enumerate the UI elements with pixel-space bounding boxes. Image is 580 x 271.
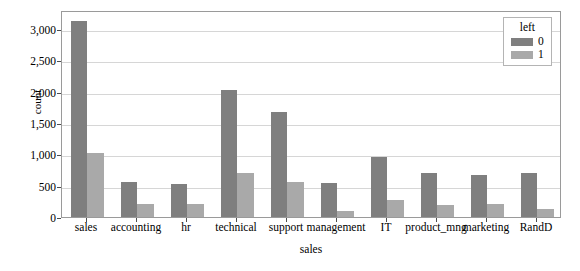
bar	[87, 153, 104, 217]
bar	[387, 200, 404, 217]
x-axis-tick-label: sales	[75, 221, 97, 233]
legend-entries: 01	[511, 35, 544, 61]
bar	[337, 211, 354, 217]
legend-entry: 0	[511, 35, 544, 48]
x-axis-tick-label: RandD	[520, 221, 553, 233]
bar	[287, 182, 304, 217]
legend-swatch	[511, 38, 533, 46]
bar	[321, 183, 338, 217]
bar-group	[121, 12, 154, 217]
x-axis-tick-label: product_mng	[405, 221, 466, 233]
bar-group	[471, 12, 504, 217]
y-axis-tick-label: 2,500	[2, 56, 56, 67]
bar-group	[421, 12, 454, 217]
x-axis-tick-label: accounting	[111, 221, 161, 233]
legend-entry: 1	[511, 48, 544, 61]
legend-title: left	[511, 21, 544, 33]
bar-group	[221, 12, 254, 217]
x-axis-tick-label: technical	[215, 221, 257, 233]
bar	[71, 21, 88, 217]
y-axis-tick-label: 1,500	[2, 119, 56, 130]
y-axis-tick-label: 2,000	[2, 88, 56, 99]
bar-group	[271, 12, 304, 217]
x-axis-tick-label: marketing	[463, 221, 510, 233]
bar	[221, 90, 238, 217]
bar	[471, 175, 488, 217]
y-axis-tick-label: 500	[2, 182, 56, 193]
x-axis-tick-label: hr	[181, 221, 191, 233]
bar-chart-figure: count 05001,0001,5002,0002,5003,000 sale…	[0, 0, 580, 271]
bar	[137, 204, 154, 217]
bar	[271, 112, 288, 217]
y-axis-tick-mark	[57, 218, 61, 219]
legend-label: 0	[538, 36, 544, 47]
bar	[187, 204, 204, 217]
bar-group	[71, 12, 104, 217]
legend: left 01	[503, 17, 552, 66]
x-axis-tick-label: IT	[381, 221, 392, 233]
plot-area	[61, 11, 561, 218]
bar	[537, 209, 554, 217]
bar	[437, 205, 454, 217]
legend-label: 1	[538, 49, 544, 60]
bar	[421, 173, 438, 217]
x-axis-tick-label: support	[269, 221, 304, 233]
x-axis-tick-labels: salesaccountinghrtechnicalsupportmanagem…	[61, 221, 561, 237]
x-axis-label: sales	[61, 243, 561, 255]
bar-series-container	[62, 12, 560, 217]
bar	[237, 173, 254, 217]
bar	[521, 173, 538, 217]
y-axis-tick-label: 0	[2, 213, 56, 224]
bar-group	[371, 12, 404, 217]
bar	[121, 182, 138, 217]
y-axis-tick-label: 3,000	[2, 25, 56, 36]
bar	[171, 184, 188, 217]
y-axis-tick-labels: 05001,0001,5002,0002,5003,000	[0, 0, 56, 271]
bar	[487, 204, 504, 217]
bar	[371, 157, 388, 217]
y-axis-tick-label: 1,000	[2, 150, 56, 161]
x-axis-tick-label: management	[307, 221, 366, 233]
bar-group	[321, 12, 354, 217]
bar-group	[171, 12, 204, 217]
legend-swatch	[511, 51, 533, 59]
